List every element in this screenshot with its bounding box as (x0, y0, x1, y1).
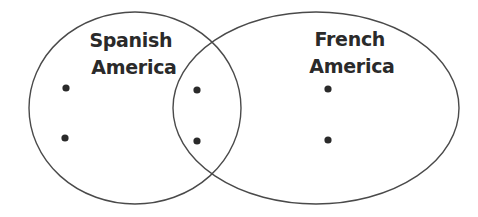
bullet-point-icon (61, 134, 68, 141)
bullet-point-icon (62, 84, 69, 91)
french-america-bullets (324, 85, 331, 143)
bullet-point-icon (193, 86, 200, 93)
overlap-bullets (193, 86, 200, 144)
french-america-label-line-2: America (309, 55, 394, 77)
spanish-america-bullets (61, 84, 69, 141)
spanish-america-label-line-1: Spanish (89, 29, 172, 51)
bullet-point-icon (324, 136, 331, 143)
venn-diagram-svg: Spanish America French America (0, 0, 478, 217)
french-america-label: French America (309, 28, 394, 77)
venn-diagram: Spanish America French America (0, 0, 478, 217)
spanish-america-label: Spanish America (89, 29, 178, 78)
spanish-america-label-line-2: America (91, 56, 176, 78)
bullet-point-icon (324, 85, 331, 92)
french-america-label-line-1: French (315, 28, 386, 50)
bullet-point-icon (193, 137, 200, 144)
